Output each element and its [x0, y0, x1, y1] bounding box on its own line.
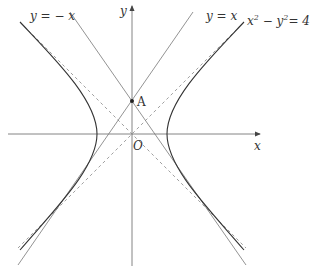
eq-minus: −: [259, 14, 277, 28]
label-y-neg-x: y = − x: [30, 10, 75, 22]
hyperbola-left-branch: [20, 22, 97, 250]
point-A: [130, 99, 134, 103]
label-point-A: A: [137, 96, 146, 108]
label-origin: O: [133, 140, 143, 152]
label-x-axis: x: [254, 140, 261, 152]
eq-x: x: [247, 14, 254, 28]
label-y-x: y = x: [206, 10, 237, 22]
hyperbola-right-branch: [167, 22, 244, 250]
label-y-axis: y: [120, 5, 127, 17]
eq-rest: = 4: [288, 14, 310, 28]
hyperbola-diagram: y = − x y = x x2 − y2= 4 y x A O: [0, 0, 312, 276]
label-equation: x2 − y2= 4: [247, 14, 310, 27]
diagram-graphics: [0, 0, 312, 276]
